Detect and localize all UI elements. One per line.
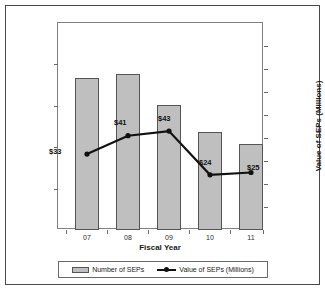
plot-area: 250 200 150 100 50 0 $90 $80 $70 $60 $50… bbox=[58, 23, 262, 228]
x-tick-label-fy10: 10 bbox=[198, 234, 222, 242]
line-marker-fy08 bbox=[125, 133, 130, 138]
x-tickmark bbox=[189, 230, 190, 234]
y-right-tickmark bbox=[264, 46, 268, 47]
legend-item-value-of-seps[interactable]: Value of SEPs (Millions) bbox=[157, 266, 254, 273]
y-right-tickmark bbox=[264, 69, 268, 70]
x-tick-label-fy09: 09 bbox=[157, 234, 181, 242]
y-right-tickmark bbox=[264, 207, 268, 208]
x-tickmark bbox=[148, 230, 149, 234]
y-right-tickmark bbox=[264, 138, 268, 139]
line-series-svg bbox=[58, 23, 264, 230]
line-marker-fy07 bbox=[84, 152, 89, 157]
data-label-fy10: $24 bbox=[199, 159, 212, 167]
y-axis-right-title: Value of SEPs (Millions) bbox=[314, 80, 323, 171]
y-right-tickmark bbox=[264, 161, 268, 162]
plot-frame: 250 200 150 100 50 0 $90 $80 $70 $60 $50… bbox=[57, 22, 263, 229]
x-tick-label-fy11: 11 bbox=[239, 234, 263, 242]
x-axis-title: Fiscal Year bbox=[57, 243, 263, 252]
line-marker-fy09 bbox=[166, 129, 171, 134]
x-tickmark bbox=[107, 230, 108, 234]
data-label-fy08: $41 bbox=[114, 119, 127, 127]
bar-swatch-icon bbox=[72, 267, 89, 273]
chart-legend: Number of SEPs Value of SEPs (Millions) bbox=[58, 261, 268, 278]
x-tickmark bbox=[263, 230, 264, 234]
x-tickmark bbox=[66, 230, 67, 234]
y-right-tickmark bbox=[264, 115, 268, 116]
x-tickmark bbox=[230, 230, 231, 234]
legend-item-number-of-seps[interactable]: Number of SEPs bbox=[72, 266, 144, 273]
data-label-fy09: $43 bbox=[158, 115, 171, 123]
data-label-fy07: $33 bbox=[49, 148, 62, 156]
legend-label-number-of-seps: Number of SEPs bbox=[92, 266, 144, 273]
line-marker-fy10 bbox=[207, 172, 212, 177]
x-tick-label-fy08: 08 bbox=[116, 234, 140, 242]
value-line bbox=[87, 131, 251, 175]
y-right-tickmark bbox=[264, 92, 268, 93]
x-tick-label-fy07: 07 bbox=[75, 234, 99, 242]
chart-figure: Number of SEPs Value of SEPs (Millions) … bbox=[0, 0, 325, 290]
legend-label-value-of-seps: Value of SEPs (Millions) bbox=[179, 266, 254, 273]
data-label-fy11: $25 bbox=[247, 164, 260, 172]
y-right-tickmark bbox=[264, 184, 268, 185]
line-swatch-icon bbox=[157, 266, 176, 273]
